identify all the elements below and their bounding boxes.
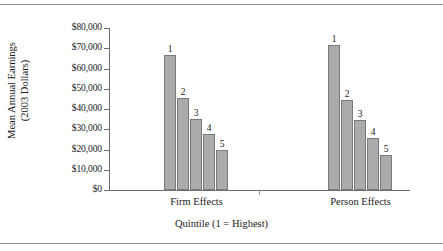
y-axis-tick-label: $60,000 [36, 64, 102, 74]
bar [380, 155, 392, 190]
y-axis-title: Mean Annual Earnings (2003 Dollars) [6, 11, 31, 171]
x-axis-title: Quintile (1 = Highest) [0, 218, 443, 230]
category-label-firm-effects: Firm Effects [137, 196, 257, 208]
y-axis-tick-label: $80,000 [36, 23, 102, 33]
bar-value-label: 5 [377, 144, 395, 154]
bar-value-label: 1 [161, 44, 179, 54]
y-axis-tick-label: $20,000 [36, 145, 102, 155]
bar [328, 45, 340, 190]
bar-value-label: 2 [174, 87, 192, 97]
plot-area: 1234512345 [109, 28, 409, 190]
y-axis-tick-label: $10,000 [36, 165, 102, 175]
y-axis-tick-label: $40,000 [36, 104, 102, 114]
bar [164, 55, 176, 190]
bar-value-label: 1 [325, 34, 343, 44]
category-label-person-effects: Person Effects [301, 196, 421, 208]
bar-group-person-effects: 12345 [328, 28, 393, 190]
bar-group-firm-effects: 12345 [164, 28, 229, 190]
y-axis-title-line2: (2003 Dollars) [18, 11, 31, 171]
y-axis-tick-label: $70,000 [36, 43, 102, 53]
y-axis-tick-label: $30,000 [36, 124, 102, 134]
y-axis-tick-label: $50,000 [36, 84, 102, 94]
bar-value-label: 2 [338, 89, 356, 99]
chart-figure: Mean Annual Earnings (2003 Dollars) $80,… [0, 0, 443, 251]
y-axis-title-line1: Mean Annual Earnings [6, 42, 17, 139]
bar-value-label: 3 [187, 108, 205, 118]
bar-value-label: 3 [351, 109, 369, 119]
y-axis-tick-labels: $80,000$70,000$60,000$50,000$40,000$30,0… [34, 0, 102, 251]
bar-value-label: 4 [200, 123, 218, 133]
bar [216, 150, 228, 191]
bar-value-label: 5 [213, 139, 231, 149]
y-axis-tick-label: $0 [36, 185, 102, 195]
bar-value-label: 4 [364, 127, 382, 137]
x-axis-center-tick [259, 191, 260, 195]
